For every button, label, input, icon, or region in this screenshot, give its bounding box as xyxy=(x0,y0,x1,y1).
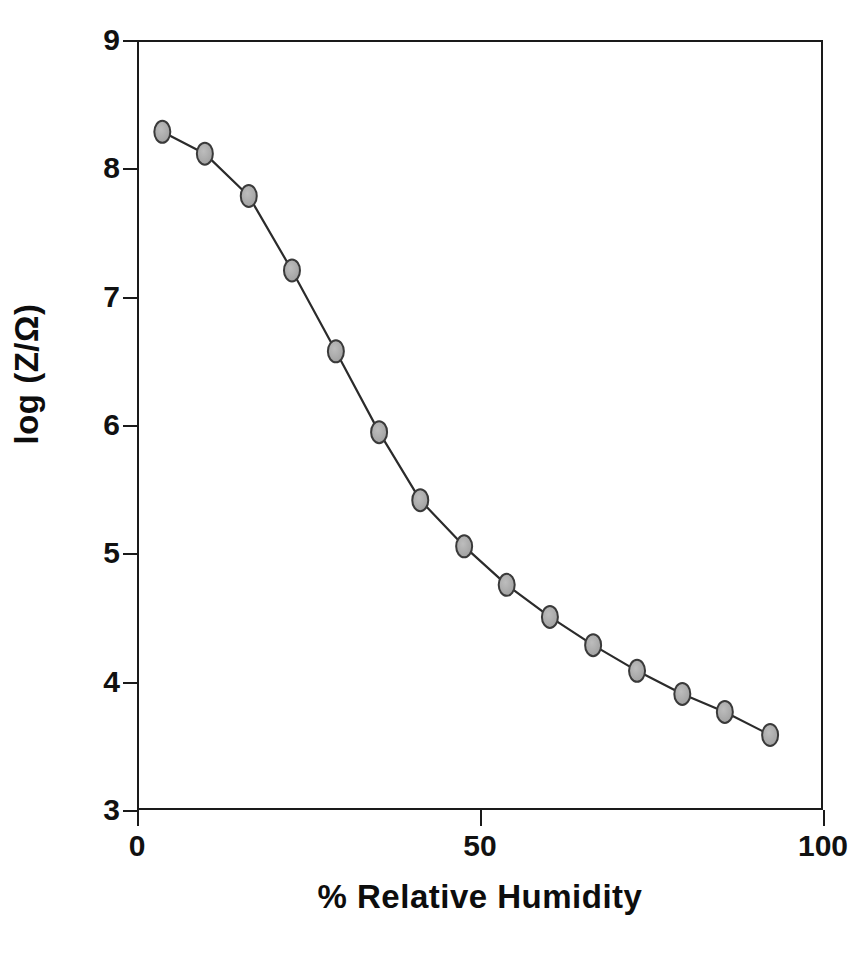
x-axis-tick-mark xyxy=(823,810,825,826)
x-axis-tick-mark xyxy=(480,810,482,826)
series-markers xyxy=(154,121,778,746)
data-series-svg xyxy=(139,42,825,812)
x-axis-tick-label: 100 xyxy=(798,831,848,861)
data-point-marker xyxy=(762,724,778,746)
y-axis-tick-label: 4 xyxy=(80,667,120,697)
data-point-marker xyxy=(629,660,645,682)
x-axis-tick-label: 50 xyxy=(463,831,496,861)
data-point-marker xyxy=(499,574,515,596)
data-point-marker xyxy=(412,489,428,511)
data-point-marker xyxy=(717,701,733,723)
y-axis-tick-label: 7 xyxy=(80,282,120,312)
x-axis-title: % Relative Humidity xyxy=(137,878,823,916)
chart-figure: 3456789 050100 % Relative Humidity log (… xyxy=(0,0,858,954)
y-axis-tick-label: 8 xyxy=(80,153,120,183)
y-axis-tick-label: 5 xyxy=(80,538,120,568)
data-point-marker xyxy=(456,535,472,557)
x-axis-tick-mark xyxy=(137,810,139,826)
data-point-marker xyxy=(328,340,344,362)
y-axis-tick-label: 3 xyxy=(80,795,120,825)
plot-area xyxy=(137,40,823,810)
data-point-marker xyxy=(154,121,170,143)
y-axis-tick-labels: 3456789 xyxy=(72,0,120,954)
data-point-marker xyxy=(674,683,690,705)
y-axis-tick-label: 9 xyxy=(80,25,120,55)
data-point-marker xyxy=(585,634,601,656)
data-point-marker xyxy=(197,143,213,165)
data-point-marker xyxy=(371,421,387,443)
data-point-marker xyxy=(241,185,257,207)
data-point-marker xyxy=(284,259,300,281)
data-point-marker xyxy=(542,606,558,628)
y-axis-tick-label: 6 xyxy=(80,410,120,440)
y-axis-title: log (Z/Ω) xyxy=(8,244,46,504)
series-line xyxy=(162,132,770,735)
x-axis-tick-label: 0 xyxy=(129,831,146,861)
